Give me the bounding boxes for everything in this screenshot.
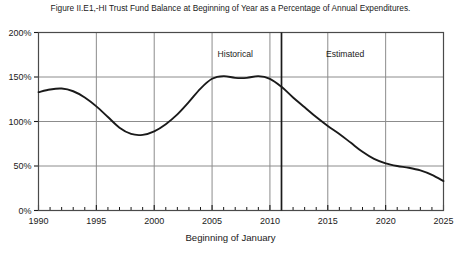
region-annotations-group: HistoricalEstimated (218, 49, 365, 59)
svg-text:2000: 2000 (144, 216, 164, 226)
svg-text:1995: 1995 (86, 216, 106, 226)
svg-text:2005: 2005 (202, 216, 222, 226)
svg-text:Historical: Historical (218, 49, 253, 59)
svg-text:200%: 200% (8, 28, 31, 38)
x-axis-title: Beginning of January (0, 232, 461, 243)
svg-text:2025: 2025 (433, 216, 453, 226)
svg-text:1990: 1990 (28, 216, 48, 226)
svg-text:50%: 50% (13, 161, 31, 171)
y-axis-tick-labels: 0%50%100%150%200% (8, 28, 31, 216)
data-series-line (39, 76, 444, 181)
svg-text:Estimated: Estimated (326, 49, 364, 59)
svg-text:2010: 2010 (260, 216, 280, 226)
svg-text:150%: 150% (8, 72, 31, 82)
svg-text:2020: 2020 (376, 216, 396, 226)
svg-text:100%: 100% (8, 117, 31, 127)
svg-text:2015: 2015 (318, 216, 338, 226)
x-axis-tick-labels: 19901995200020052010201520202025 (28, 216, 453, 226)
chart-figure: Figure II.E1,-HI Trust Fund Balance at B… (0, 0, 461, 258)
svg-text:0%: 0% (18, 206, 31, 216)
chart-plot-area: 0%50%100%150%200% 1990199520002005201020… (0, 0, 461, 258)
